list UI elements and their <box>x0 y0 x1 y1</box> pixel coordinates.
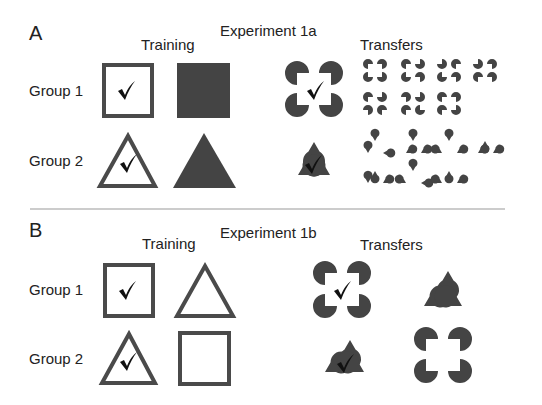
check-icon <box>120 154 137 173</box>
outlined-triangle <box>177 266 233 316</box>
scrambled-triangle-transfers <box>364 129 506 188</box>
figure-canvas <box>0 0 542 405</box>
scrambled-square-transfers <box>363 59 497 115</box>
outlined-square <box>180 333 229 384</box>
filled-square <box>177 63 230 118</box>
kanizsa-square-b2 <box>414 327 472 383</box>
check-icon <box>120 352 137 371</box>
outlined-triangle <box>100 136 155 186</box>
check-icon <box>119 281 136 300</box>
kanizsa-square-b1 <box>313 261 371 318</box>
kanizsa-triangle-b2 <box>320 340 370 382</box>
check-icon <box>307 81 324 100</box>
panel-b-training <box>102 265 233 384</box>
panel-a-training <box>100 63 236 188</box>
outlined-triangle <box>102 334 155 383</box>
check-icon <box>334 281 351 300</box>
check-icon <box>118 81 135 100</box>
kanizsa-triangle-b1 <box>419 271 468 316</box>
kanizsa-square-a <box>285 61 343 117</box>
filled-triangle <box>173 133 236 188</box>
kanizsa-triangle-a <box>293 142 336 185</box>
